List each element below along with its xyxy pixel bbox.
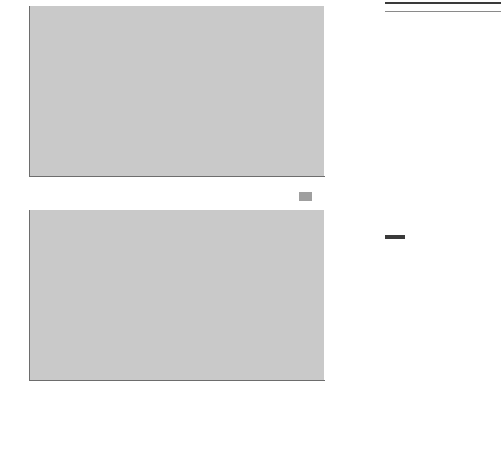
figure-tag-wrap: [385, 225, 501, 243]
y-axis-line-bottom: [29, 210, 30, 381]
figure-tag-label: [385, 235, 405, 239]
figure-caption-top: [385, 2, 501, 19]
chart-number-in-poverty: [0, 0, 340, 190]
caption-rule-top: [385, 2, 501, 4]
x-axis-line-top: [29, 176, 325, 177]
figure-caption-bottom: [385, 225, 501, 250]
document-page: [0, 0, 501, 449]
chart-poverty-rates-by-age: [0, 188, 400, 410]
y-axis-line-top: [29, 6, 30, 177]
x-axis-line-bottom: [29, 380, 325, 381]
series-lines-bottom: [0, 188, 400, 410]
caption-divider-top: [385, 11, 501, 12]
series-lines-top: [0, 0, 340, 190]
